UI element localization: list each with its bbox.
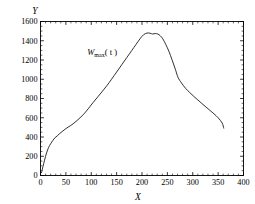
x-tick-label: 350: [212, 178, 224, 187]
y-tick-label: 600: [25, 114, 37, 123]
curve-label-subscript: max: [94, 52, 104, 58]
y-tick-label: 400: [25, 133, 37, 142]
line-chart: 050100150200250300350400 020040060080010…: [0, 0, 255, 204]
y-tick-label: 800: [25, 94, 37, 103]
curve-label-suffix: ( t ): [105, 47, 118, 57]
x-axis-label: X: [134, 192, 142, 202]
y-tick-label: 1200: [21, 56, 37, 65]
y-tick-label: 1000: [21, 75, 37, 84]
x-tick-label: 50: [62, 178, 70, 187]
x-tick-label: 400: [237, 178, 249, 187]
chart-figure: 050100150200250300350400 020040060080010…: [0, 0, 255, 204]
x-tick-label: 150: [110, 178, 122, 187]
x-tick-label: 250: [161, 178, 173, 187]
x-tick-label: 200: [136, 178, 148, 187]
x-tick-label: 0: [38, 178, 42, 187]
y-tick-label: 0: [33, 171, 37, 180]
x-tick-label: 100: [85, 178, 97, 187]
y-tick-label: 200: [25, 152, 37, 161]
chart-background: [0, 0, 255, 204]
x-tick-label: 300: [187, 178, 199, 187]
y-tick-label: 1600: [21, 17, 37, 26]
y-tick-label: 1400: [21, 37, 37, 46]
